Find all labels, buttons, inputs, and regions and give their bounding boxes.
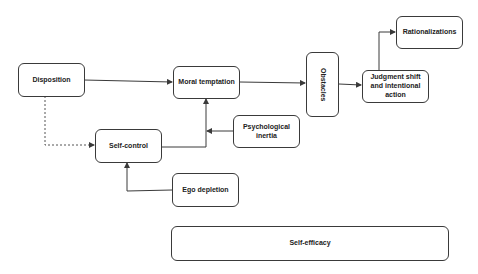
edge-moral-temptation-to-obstacles	[240, 82, 305, 83]
node-label: Psychological inertia	[236, 123, 297, 141]
edge-obstacles-to-judgment-shift	[339, 84, 361, 85]
node-label: Self-efficacy	[289, 239, 330, 248]
node-label: Rationalizations	[403, 28, 457, 37]
node-label: Obstacles	[318, 68, 327, 101]
node-ego-depletion: Ego depletion	[172, 173, 239, 207]
node-psychological-inertia: Psychological inertia	[233, 115, 300, 148]
node-label: Ego depletion	[182, 186, 228, 195]
node-disposition: Disposition	[18, 63, 85, 97]
node-label: Disposition	[32, 76, 70, 85]
node-label: Moral temptation	[178, 78, 234, 87]
edge-disposition-to-self-control	[45, 96, 94, 145]
node-self-control: Self-control	[95, 129, 162, 163]
node-self-efficacy: Self-efficacy	[171, 226, 449, 261]
edge-judgment-shift-to-rationalizations	[379, 32, 395, 70]
node-judgment-shift: Judgment shift and intentional action	[362, 70, 429, 103]
edge-ego-depletion-to-self-control	[127, 163, 172, 191]
node-moral-temptation: Moral temptation	[173, 66, 240, 99]
edge-self-control-to-moral-temptation	[161, 99, 206, 147]
node-rationalizations: Rationalizations	[396, 16, 463, 49]
node-label: Self-control	[109, 142, 148, 151]
node-obstacles: Obstacles	[306, 52, 339, 117]
edge-disposition-to-moral-temptation	[84, 80, 172, 82]
node-label: Judgment shift and intentional action	[365, 73, 426, 99]
